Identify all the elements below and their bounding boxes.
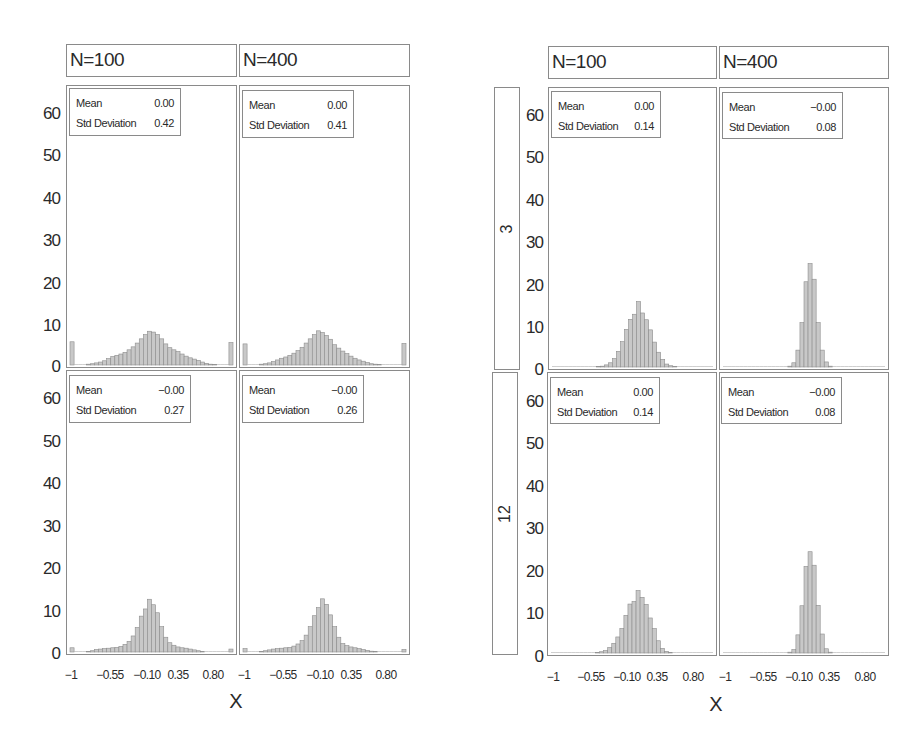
histogram-bar [284, 648, 288, 652]
x-tick: −0.55 [96, 668, 123, 682]
histogram-bar [139, 339, 143, 365]
y-tick: 50 [30, 146, 60, 166]
histogram-bar [156, 335, 160, 365]
histogram-bar [70, 342, 74, 365]
stats-box: Mean−0.00 Std Deviation0.08 [721, 377, 842, 424]
std-value: 0.41 [327, 119, 347, 131]
histogram-bar [600, 652, 604, 653]
histogram-bar [329, 339, 333, 365]
histogram-bar [86, 364, 90, 365]
stats-box: Mean0.00 Std Deviation0.14 [550, 377, 660, 424]
histogram-bar [103, 649, 107, 652]
histogram-bar [600, 366, 604, 367]
std-value: 0.08 [815, 406, 835, 418]
histogram-bar [357, 360, 361, 365]
mean-label: Mean [249, 99, 275, 111]
histogram-bar [628, 604, 632, 653]
histogram-bar [353, 358, 357, 365]
histogram-bar [820, 350, 824, 367]
histogram-bar [628, 319, 632, 367]
histogram-bar [637, 302, 641, 367]
histogram-bar [808, 264, 812, 367]
histogram-bar [345, 646, 349, 652]
histogram-bar [333, 345, 337, 365]
histogram-bar [640, 597, 644, 653]
x-tick: −0.10 [306, 668, 333, 682]
std-value: 0.14 [633, 406, 653, 418]
x-axis-label: X [229, 690, 242, 713]
y-tick: 30 [30, 517, 60, 537]
histogram-bar [143, 335, 147, 365]
mean-label: Mean [76, 384, 102, 396]
histogram-bar [788, 366, 792, 367]
histogram-bar [94, 363, 98, 365]
histogram-bar [272, 362, 276, 365]
histogram-bar [333, 627, 337, 652]
y-tick: 20 [30, 559, 60, 579]
x-tick: −0.55 [577, 670, 604, 684]
histogram-bar [300, 347, 304, 365]
histogram-bar [267, 363, 271, 365]
histogram-bar [792, 650, 796, 653]
y-tick: 0 [30, 644, 60, 664]
histogram-bar [94, 649, 98, 652]
histogram-bar [300, 641, 304, 652]
histogram-bar [135, 628, 139, 652]
histogram-bar [649, 330, 653, 367]
histogram-bar [373, 364, 377, 365]
x-tick: −0.55 [269, 668, 296, 682]
histogram-bar [156, 613, 160, 652]
histogram-bar [184, 648, 188, 652]
histogram-bar [115, 647, 119, 652]
std-label: Std Deviation [249, 119, 309, 131]
histogram-bar [632, 602, 636, 653]
histogram-bar [325, 335, 329, 365]
stats-box: Mean0.00 Std Deviation0.41 [242, 90, 354, 138]
mean-value: −0.00 [158, 384, 184, 396]
histogram-bar [90, 651, 94, 652]
histogram-bar [341, 351, 345, 365]
histogram-bar [800, 606, 804, 653]
x-axis-label: X [709, 693, 722, 716]
histogram-bar [652, 629, 656, 653]
histogram-bar [604, 650, 608, 653]
histogram-bar [196, 651, 200, 652]
stats-box: Mean−0.00 Std Deviation0.26 [242, 375, 364, 423]
histogram-bar [824, 649, 828, 653]
column-header-n400: N=400 [719, 46, 889, 79]
histogram-bar [99, 362, 103, 365]
histogram-bar [633, 314, 637, 367]
histogram-bar [160, 627, 164, 652]
x-tick: 0.35 [819, 670, 840, 684]
histogram-bar [312, 616, 316, 652]
y-tick: 10 [30, 316, 60, 336]
y-tick: 50 [513, 148, 543, 168]
y-tick: 40 [30, 189, 60, 209]
histogram-bar [796, 350, 800, 367]
histogram-bar [320, 333, 324, 365]
histogram-bar [304, 343, 308, 365]
std-label: Std Deviation [249, 404, 309, 416]
histogram-bar [272, 649, 276, 652]
y-tick: 0 [513, 647, 543, 667]
histogram-bar [656, 641, 660, 653]
histogram-bar [792, 363, 796, 367]
histogram-bar [90, 364, 94, 365]
histogram-bar [111, 357, 115, 365]
mean-value: −0.00 [331, 384, 357, 396]
histogram-bar [369, 364, 373, 365]
histogram-bar [636, 591, 640, 653]
std-value: 0.14 [634, 120, 654, 132]
histogram-bar [660, 648, 664, 653]
histogram-bar [188, 649, 192, 652]
y-tick: 40 [513, 191, 543, 211]
y-tick: 40 [30, 474, 60, 494]
y-tick: 50 [513, 434, 543, 454]
histogram-bar [357, 649, 361, 652]
histogram-bar [616, 351, 620, 367]
histogram-bar [669, 366, 673, 367]
y-tick: 10 [513, 604, 543, 624]
histogram-bar [645, 320, 649, 367]
stats-box: Mean0.00 Std Deviation0.14 [551, 91, 661, 138]
mean-label: Mean [728, 386, 754, 398]
